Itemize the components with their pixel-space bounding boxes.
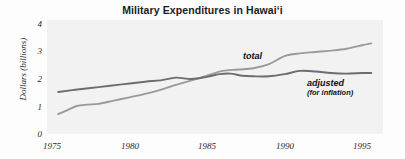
x-axis-tick-label: 1985 [187,141,227,151]
x-axis-tick-label: 1995 [342,141,382,151]
x-axis-tick-label: 1975 [32,141,72,151]
y-axis-tick-label: 2 [26,74,42,84]
chart-screenshot: Military Expenditures in Hawai‘i Dollars… [0,0,405,159]
series-annotation-adjusted: adjusted [307,78,344,88]
x-axis-tick-label: 1980 [110,141,150,151]
series-annotation-adjusted-sublabel: (for inflation) [307,88,353,97]
y-axis-title: Dollars (billions) [18,24,28,114]
y-axis-tick-label: 0 [26,129,42,139]
x-axis-tick-label: 1990 [265,141,305,151]
y-axis-tick-label: 4 [26,19,42,29]
chart-svg [0,0,405,159]
y-axis-tick-label: 1 [26,102,42,112]
series-annotation-total: total [243,51,262,61]
y-axis-tick-label: 3 [26,46,42,56]
